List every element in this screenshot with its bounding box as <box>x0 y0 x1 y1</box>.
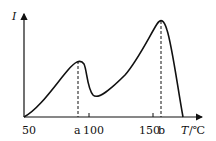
tick-label-b: b <box>158 124 165 137</box>
chart: I 50 a 100 150 b T /℃ <box>0 0 216 141</box>
tick-label-a: a <box>74 124 81 137</box>
tick-label-50: 50 <box>22 124 36 137</box>
tick-label-150: 150 <box>139 124 160 137</box>
data-curve <box>24 21 183 117</box>
y-axis-label: I <box>11 10 17 23</box>
x-axis-unit: /℃ <box>189 124 205 137</box>
tick-label-100: 100 <box>83 124 104 137</box>
